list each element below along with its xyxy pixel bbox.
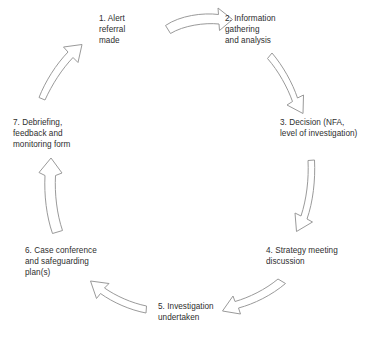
- step-label-3-decision-nfa-level-of-investigation: 3. Decision (NFA, level of investigation…: [280, 117, 369, 139]
- step-label-2-information-gathering-and-analysis: 2. Information gathering and analysis: [225, 13, 303, 47]
- step-label-5-investigation-undertaken: 5. Investigation undertaken: [158, 301, 230, 323]
- arrow-6-to-7: [39, 158, 63, 234]
- step-label-6-case-conference-and-safeguarding-plans: 6. Case conference and safeguarding plan…: [25, 245, 117, 279]
- step-label-7-debriefing-feedback-and-monitoring-form: 7. Debriefing, feedback and monitoring f…: [13, 117, 93, 151]
- arrow-1-to-2: [166, 8, 233, 34]
- cycle-arrow-group: [0, 0, 369, 338]
- step-label-4-strategy-meeting-discussion: 4. Strategy meeting discussion: [266, 245, 350, 267]
- arrow-3-to-4: [295, 160, 315, 232]
- arrow-4-to-5: [223, 279, 286, 314]
- step-label-1-alert-referral-made: 1. Alert referral made: [99, 13, 161, 47]
- arrow-5-to-6: [91, 281, 147, 313]
- arrow-2-to-3: [268, 53, 304, 114]
- arrow-7-to-1: [39, 45, 82, 101]
- safeguarding-process-cycle-diagram: 1. Alert referral made 2. Information ga…: [0, 0, 369, 338]
